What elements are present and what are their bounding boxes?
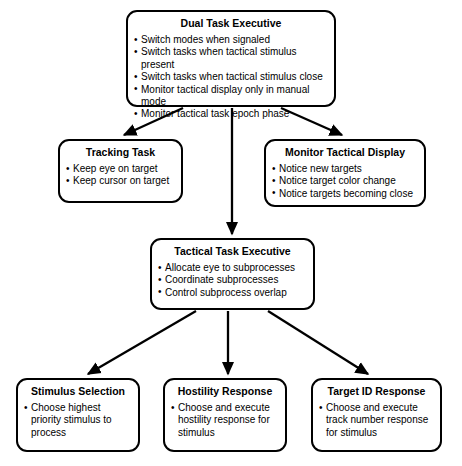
bullet-item: Choose and execute hostility response fo…: [171, 402, 279, 439]
node-bullet-list: Choose and execute track number response…: [319, 402, 434, 439]
bullet-item: Notice new targets: [272, 163, 418, 175]
node-bullet-list: Choose and execute hostility response fo…: [171, 402, 279, 439]
node-bullet-list: Switch modes when signaled Switch tasks …: [134, 34, 328, 121]
node-tracking-task[interactable]: Tracking Task Keep eye on target Keep cu…: [58, 139, 183, 203]
node-bullet-list: Choose highest priority stimulus to proc…: [24, 402, 132, 439]
edge-tactical-to-stimulus-selection: [88, 311, 196, 374]
node-title: Stimulus Selection: [24, 385, 132, 398]
node-dual-task-executive[interactable]: Dual Task Executive Switch modes when si…: [126, 10, 336, 107]
node-title: Target ID Response: [319, 385, 434, 398]
bullet-item: Switch modes when signaled: [134, 34, 328, 46]
node-tactical-task-executive[interactable]: Tactical Task Executive Allocate eye to …: [150, 238, 315, 310]
bullet-item: Notice target color change: [272, 175, 418, 187]
edge-tactical-to-target-id-response: [268, 311, 368, 374]
node-title: Monitor Tactical Display: [272, 146, 418, 159]
node-title: Tactical Task Executive: [158, 245, 307, 258]
bullet-item: Monitor tactical display only in manual …: [134, 84, 328, 109]
bullet-item: Switch tasks when tactical stimulus pres…: [134, 46, 328, 71]
node-stimulus-selection[interactable]: Stimulus Selection Choose highest priori…: [16, 378, 140, 452]
bullet-item: Control subprocess overlap: [158, 287, 307, 299]
bullet-item: Keep cursor on target: [66, 175, 175, 187]
node-target-id-response[interactable]: Target ID Response Choose and execute tr…: [311, 378, 442, 452]
bullet-item: Notice targets becoming close: [272, 188, 418, 200]
bullet-item: Choose highest priority stimulus to proc…: [24, 402, 132, 439]
bullet-item: Switch tasks when tactical stimulus clos…: [134, 71, 328, 83]
node-monitor-tactical-display[interactable]: Monitor Tactical Display Notice new targ…: [264, 139, 426, 207]
node-title: Tracking Task: [66, 146, 175, 159]
node-title: Dual Task Executive: [134, 17, 328, 30]
node-title: Hostility Response: [171, 385, 279, 398]
node-bullet-list: Keep eye on target Keep cursor on target: [66, 163, 175, 188]
task-hierarchy-diagram: Dual Task Executive Switch modes when si…: [0, 0, 462, 466]
node-hostility-response[interactable]: Hostility Response Choose and execute ho…: [163, 378, 287, 452]
bullet-item: Monitor tactical task epoch phase: [134, 108, 328, 120]
bullet-item: Choose and execute track number response…: [319, 402, 434, 439]
bullet-item: Keep eye on target: [66, 163, 175, 175]
node-bullet-list: Allocate eye to subprocesses Coordinate …: [158, 262, 307, 299]
node-bullet-list: Notice new targets Notice target color c…: [272, 163, 418, 200]
bullet-item: Allocate eye to subprocesses: [158, 262, 307, 274]
bullet-item: Coordinate subprocesses: [158, 274, 307, 286]
